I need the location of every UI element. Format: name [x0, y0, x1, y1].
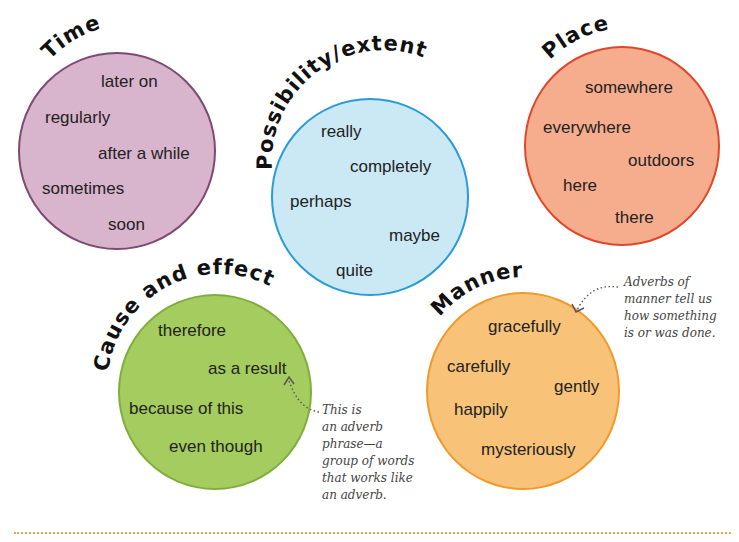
phrase-arrow-icon [289, 381, 319, 412]
dotted-divider [14, 532, 731, 534]
annotation-arrows [0, 0, 739, 542]
manner-arrow-icon [577, 287, 618, 310]
